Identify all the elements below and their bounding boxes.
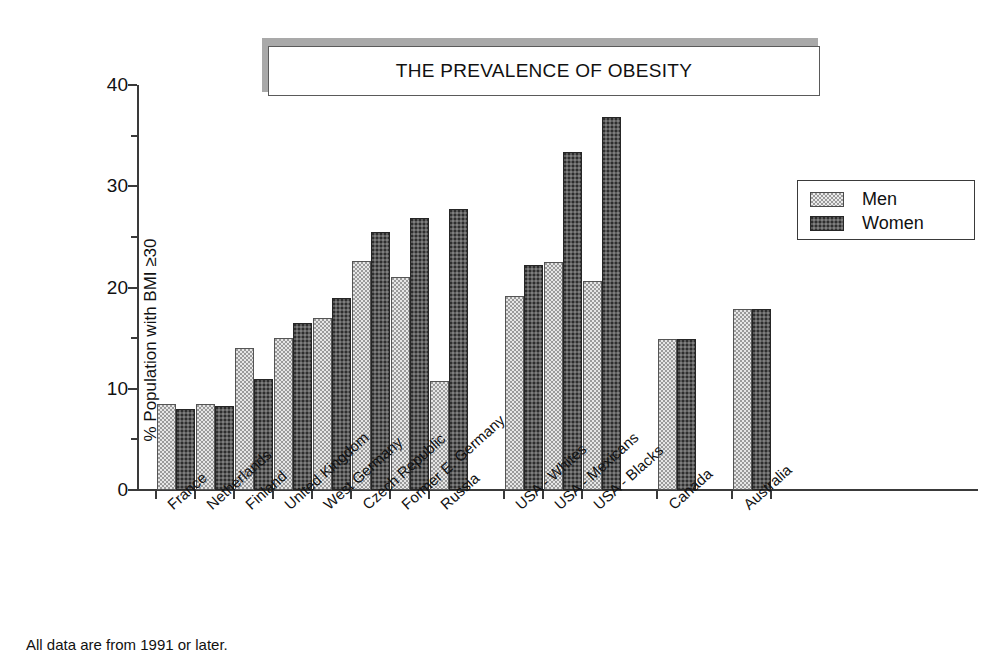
x-tick [731, 491, 733, 499]
bar-group [505, 85, 543, 490]
chart-title: THE PREVALENCE OF OBESITY [396, 60, 692, 82]
bar-men [658, 339, 677, 490]
x-tick [656, 491, 658, 499]
bar-women [524, 265, 543, 490]
bar-group [658, 85, 696, 490]
bar-women [563, 152, 582, 490]
y-axis-tick-label: 30 [88, 176, 128, 195]
bar-women [752, 309, 771, 490]
bar-group [274, 85, 312, 490]
legend-item-women: Women [810, 212, 924, 234]
bar-men [157, 404, 176, 490]
y-tick-minor [131, 236, 137, 238]
legend-label-men: Men [862, 189, 897, 210]
bar-group [544, 85, 582, 490]
y-axis-tick-label: 20 [88, 278, 128, 297]
bar-group [583, 85, 621, 490]
x-tick [503, 491, 505, 499]
bar-group [235, 85, 273, 490]
y-axis-tick-labels: 010203040 [88, 85, 128, 490]
x-tick [155, 491, 157, 499]
y-tick-minor [131, 337, 137, 339]
legend-swatch-women-icon [810, 216, 844, 231]
legend-label-women: Women [862, 213, 924, 234]
bar-group [391, 85, 429, 490]
y-tick-major [128, 84, 137, 86]
footnote: All data are from 1991 or later. [26, 636, 228, 653]
bar-group [733, 85, 771, 490]
chart-page: THE PREVALENCE OF OBESITY % Population w… [0, 0, 1004, 672]
bar-women [677, 339, 696, 490]
bar-group [196, 85, 234, 490]
legend: Men Women [797, 180, 975, 240]
bar-group [313, 85, 351, 490]
legend-item-men: Men [810, 188, 897, 210]
y-tick-minor [131, 135, 137, 137]
y-tick-major [128, 185, 137, 187]
bar-women [602, 117, 621, 490]
legend-swatch-men-icon [810, 192, 844, 207]
y-axis-tick-label: 0 [88, 480, 128, 499]
bar-women [293, 323, 312, 490]
bar-men [505, 296, 524, 490]
y-tick-major [128, 287, 137, 289]
y-axis-tick-label: 10 [88, 379, 128, 398]
y-tick-major [128, 388, 137, 390]
y-tick-minor [131, 438, 137, 440]
plot-area: % Population with BMI ≥30 [137, 85, 977, 490]
y-tick-major [128, 489, 137, 491]
bar-group [157, 85, 195, 490]
y-axis-tick-label: 40 [88, 75, 128, 94]
bar-men [733, 309, 752, 490]
